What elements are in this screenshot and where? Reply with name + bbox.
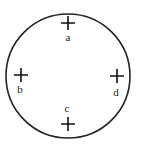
cross-icon: [61, 16, 75, 30]
cross-marker-d: d: [110, 69, 124, 98]
cross-icon: [61, 117, 75, 131]
circle-diagram: a b c d: [0, 0, 141, 150]
cross-marker-c: c: [61, 102, 75, 131]
marker-label-b: b: [17, 83, 23, 95]
marker-label-d: d: [113, 86, 119, 98]
cross-icon: [14, 68, 28, 82]
cross-icon: [110, 69, 124, 83]
marker-label-c: c: [65, 102, 70, 114]
cross-marker-b: b: [14, 68, 28, 95]
marker-label-a: a: [66, 31, 71, 43]
cross-marker-a: a: [61, 16, 75, 43]
